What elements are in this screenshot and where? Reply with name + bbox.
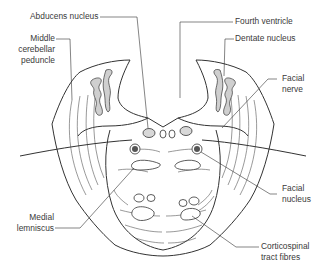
label-corticospinal-tract-fibres: Corticospinal tract fibres	[261, 241, 309, 263]
facial-nucleus-left	[130, 144, 140, 154]
dentate-nucleus-left-b	[103, 69, 112, 112]
label-line: nucleus	[282, 194, 311, 205]
dentate-nucleus-left	[91, 78, 103, 115]
label-line: peduncle	[2, 55, 55, 66]
label-facial-nerve: Facial nerve	[282, 73, 304, 95]
pons-outline	[52, 60, 274, 256]
label-fourth-ventricle: Fourth ventricle	[235, 16, 293, 27]
label-abducens-nucleus: Abducens nucleus	[30, 11, 98, 22]
mlf-left	[160, 130, 166, 138]
abducens-nucleus-left	[143, 129, 155, 138]
dentate-nucleus-right	[224, 78, 236, 115]
label-line: cerebellar	[2, 44, 55, 55]
ventricle-floor	[78, 118, 148, 136]
label-line: tract fibres	[261, 252, 309, 263]
abducens-nucleus-right	[180, 127, 192, 136]
label-facial-nucleus: Facial nucleus	[282, 183, 311, 205]
medial-lemniscus-right	[175, 160, 200, 170]
label-middle-cerebellar-peduncle: Middle cerebellar peduncle	[2, 33, 55, 66]
label-dentate-nucleus: Dentate nucleus	[235, 33, 296, 44]
label-line: Facial	[282, 183, 311, 194]
medial-lemniscus-left	[131, 160, 160, 170]
corticospinal-tracts	[132, 194, 200, 221]
label-line: Facial	[282, 73, 304, 84]
facial-nucleus-right	[192, 144, 202, 154]
label-line: nerve	[282, 84, 304, 95]
mlf-right	[169, 130, 175, 138]
label-line: Corticospinal	[261, 241, 309, 252]
facial-nerve-left	[20, 140, 132, 156]
dentate-nucleus-right-b	[214, 69, 223, 112]
label-line: Middle	[2, 33, 55, 44]
label-line: lemniscus	[4, 223, 54, 234]
label-medial-lemniscus: Medial lemniscus	[4, 212, 54, 234]
label-line: Medial	[4, 212, 54, 223]
